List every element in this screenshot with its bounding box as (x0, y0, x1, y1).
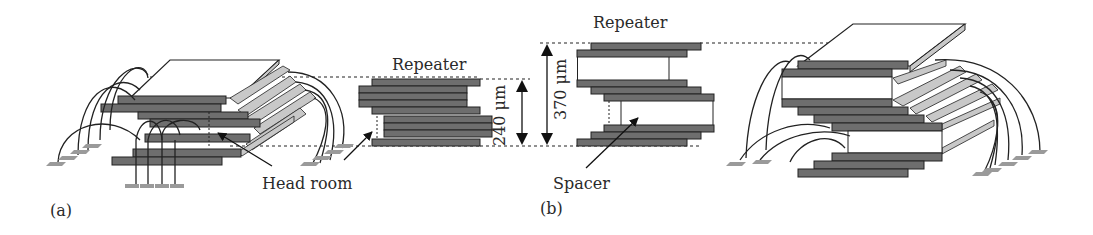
repeater-a-label: Repeater (392, 55, 467, 74)
panel-b-label: (b) (540, 199, 563, 218)
dim-370-label: 370 μm (551, 59, 570, 120)
head-room-label: Head room (262, 174, 352, 193)
chip-stack-diagram: (a) Head room Repeater 240 μm Repeater 3… (0, 0, 1093, 235)
dim-240-label: 240 μm (490, 85, 509, 146)
repeater-b-label: Repeater (593, 13, 668, 32)
panel-a-label: (a) (50, 201, 72, 220)
spacer-label: Spacer (553, 174, 610, 193)
panel-b-3d-stack (726, 24, 1048, 177)
